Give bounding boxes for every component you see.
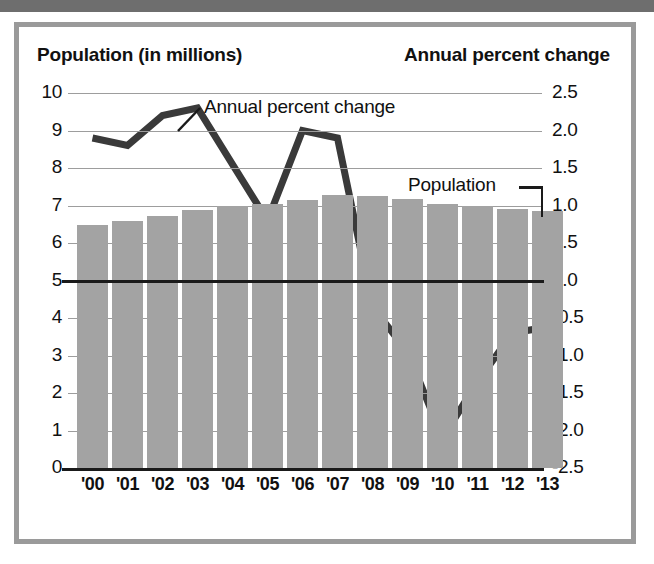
bar-callout-label: Population xyxy=(408,174,496,196)
x-axis-tick-label: '13 xyxy=(528,474,568,495)
zero-percent-line xyxy=(62,280,544,283)
bar xyxy=(287,200,318,468)
bar-callout-leader-horizontal xyxy=(519,186,543,189)
x-axis-tick-label: '07 xyxy=(318,474,358,495)
x-axis-tick-label: '06 xyxy=(283,474,323,495)
bar xyxy=(322,195,353,468)
y-axis-tick-label: 10 xyxy=(26,81,62,103)
gridline xyxy=(68,131,542,132)
chart-figure: Population (in millions) Annual percent … xyxy=(0,0,654,564)
y-axis-tick-label: 6 xyxy=(26,231,62,253)
x-axis-tick-label: '10 xyxy=(423,474,463,495)
x-axis-tick-label: '08 xyxy=(353,474,393,495)
y2-axis-tick-label: 2.5 xyxy=(552,81,578,103)
x-axis-line xyxy=(62,468,544,471)
x-axis-tick-label: '09 xyxy=(388,474,428,495)
y-axis-tick-label: 8 xyxy=(26,156,62,178)
y-axis-tick-label: 2 xyxy=(26,381,62,403)
bar-callout-leader-vertical xyxy=(541,186,544,217)
bar xyxy=(462,206,493,468)
bar xyxy=(182,210,213,468)
y-axis-tick-label: 9 xyxy=(26,119,62,141)
x-axis-tick-label: '03 xyxy=(178,474,218,495)
line-callout-label: Annual percent change xyxy=(204,96,395,118)
bar xyxy=(112,221,143,468)
bar xyxy=(392,199,423,468)
gridline xyxy=(68,93,542,94)
x-axis-tick-label: '11 xyxy=(458,474,498,495)
y-axis-tick-label: 7 xyxy=(26,194,62,216)
y-axis-tick-label: 3 xyxy=(26,344,62,366)
bar xyxy=(217,206,248,469)
x-axis-tick-label: '05 xyxy=(248,474,288,495)
bar xyxy=(252,204,283,468)
bar xyxy=(357,196,388,468)
y-axis-tick-label: 1 xyxy=(26,419,62,441)
x-axis-tick-label: '01 xyxy=(108,474,148,495)
bar xyxy=(147,216,178,468)
x-axis-tick-label: '00 xyxy=(73,474,113,495)
bar xyxy=(497,209,528,469)
y-axis-tick-label: 4 xyxy=(26,306,62,328)
bar xyxy=(532,211,563,468)
gridline xyxy=(68,168,542,169)
x-axis-tick-label: '04 xyxy=(213,474,253,495)
y-axis-tick-label: 0 xyxy=(26,456,62,478)
x-axis-tick-label: '02 xyxy=(143,474,183,495)
y2-axis-tick-label: 1.5 xyxy=(552,156,578,178)
y2-axis-tick-label: 2.0 xyxy=(552,119,578,141)
bar xyxy=(427,204,458,468)
x-axis-tick-label: '12 xyxy=(493,474,533,495)
y-axis-tick-label: 5 xyxy=(26,269,62,291)
plot-area: 012345678910-2.5-2.0-1.5-1.0-0.50.00.51.… xyxy=(0,0,654,564)
bar xyxy=(77,225,108,468)
